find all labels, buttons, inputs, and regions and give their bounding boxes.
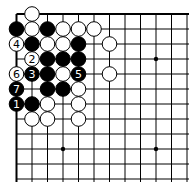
move-number: 5 — [75, 68, 82, 81]
white-stone — [25, 7, 40, 22]
go-board: 4263571 — [0, 0, 189, 182]
white-stone — [25, 112, 40, 127]
white-stone — [40, 112, 55, 127]
white-stone — [71, 82, 86, 97]
black-stone — [71, 37, 86, 52]
black-stone — [25, 97, 40, 112]
white-stone — [56, 37, 71, 52]
white-stone — [102, 37, 117, 52]
move-number: 3 — [29, 68, 36, 81]
white-stone — [102, 67, 117, 82]
star-point — [154, 147, 158, 151]
white-stone — [40, 37, 55, 52]
white-stone — [71, 22, 86, 37]
white-stone — [25, 22, 40, 37]
black-stone — [40, 82, 55, 97]
move-number: 1 — [13, 98, 20, 111]
black-stone — [25, 37, 40, 52]
move-number: 7 — [13, 83, 20, 96]
black-stone — [40, 22, 55, 37]
black-stone — [40, 52, 55, 67]
move-number: 6 — [13, 68, 20, 81]
white-stone — [87, 22, 102, 37]
white-stone — [71, 97, 86, 112]
white-stone — [56, 22, 71, 37]
black-stone — [40, 67, 55, 82]
move-number: 4 — [13, 38, 20, 51]
white-stone — [71, 112, 86, 127]
white-stone — [40, 97, 55, 112]
white-stone — [56, 67, 71, 82]
move-number: 2 — [29, 53, 36, 66]
black-stone — [9, 22, 24, 37]
black-stone — [56, 82, 71, 97]
star-point — [61, 147, 65, 151]
black-stone — [56, 52, 71, 67]
black-stone — [71, 52, 86, 67]
star-point — [154, 57, 158, 61]
